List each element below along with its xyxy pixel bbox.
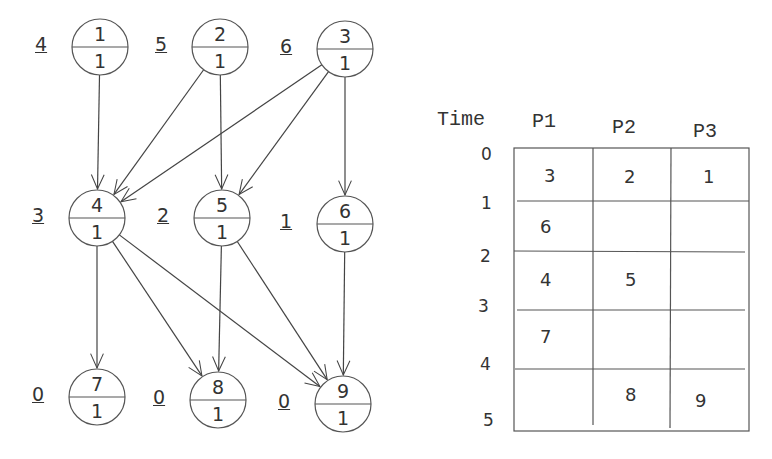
edge-2-5 xyxy=(220,75,221,189)
time-header: Time xyxy=(437,108,485,131)
processor-header-p3: P3 xyxy=(693,120,717,143)
node-id: 9 xyxy=(337,380,349,402)
time-tick-0: 0 xyxy=(481,144,492,164)
node-id: 3 xyxy=(339,25,351,47)
node-level-label-9: 0 xyxy=(278,390,290,412)
node-level-label-1: 4 xyxy=(35,33,47,55)
node-4: 41 xyxy=(69,190,125,246)
node-weight: 1 xyxy=(337,407,349,429)
schedule-cell-t4-p3: 9 xyxy=(695,390,706,411)
time-tick-3: 3 xyxy=(478,296,489,316)
edge-1-4 xyxy=(98,75,100,189)
node-weight: 1 xyxy=(91,400,103,422)
schedule-cell-t3-p1: 7 xyxy=(540,326,551,347)
node-id: 2 xyxy=(214,23,226,45)
node-weight: 1 xyxy=(91,221,103,243)
processor-header-p2: P2 xyxy=(612,116,636,139)
node-level-label-4: 3 xyxy=(32,204,44,226)
schedule-cell-t0-p1: 3 xyxy=(544,165,555,186)
node-weight: 1 xyxy=(339,227,351,249)
node-id: 8 xyxy=(212,376,224,398)
schedule-cell-t1-p1: 6 xyxy=(540,216,551,237)
node-level-label-2: 5 xyxy=(155,33,167,55)
node-1: 11 xyxy=(72,19,128,75)
time-tick-4: 4 xyxy=(480,354,491,374)
task-graph: 112131415161718191 xyxy=(0,0,400,459)
node-7: 71 xyxy=(69,369,125,425)
node-weight: 1 xyxy=(94,50,106,72)
time-tick-2: 2 xyxy=(480,246,491,266)
schedule-cell-t2-p2: 5 xyxy=(625,269,636,290)
node-weight: 1 xyxy=(214,50,226,72)
node-6: 61 xyxy=(317,196,373,252)
node-id: 6 xyxy=(339,200,351,222)
time-tick-1: 1 xyxy=(481,193,492,213)
schedule-cell-t0-p2: 2 xyxy=(624,166,635,187)
node-5: 51 xyxy=(194,190,250,246)
node-id: 5 xyxy=(216,194,228,216)
node-9: 91 xyxy=(315,376,371,432)
node-3: 31 xyxy=(317,21,373,77)
node-2: 21 xyxy=(192,19,248,75)
node-id: 1 xyxy=(94,23,106,45)
edge-5-9 xyxy=(237,241,327,379)
edge-5-8 xyxy=(219,246,222,371)
schedule-cell-t0-p3: 1 xyxy=(703,166,714,187)
schedule-cell-t2-p1: 4 xyxy=(540,269,551,290)
node-level-label-7: 0 xyxy=(32,383,44,405)
nodes: 112131415161718191 xyxy=(69,19,373,432)
node-weight: 1 xyxy=(216,221,228,243)
node-level-label-5: 2 xyxy=(157,204,169,226)
node-weight: 1 xyxy=(339,52,351,74)
schedule-cell-t4-p2: 8 xyxy=(625,384,636,405)
edge-4-8 xyxy=(113,241,202,376)
node-level-label-6: 1 xyxy=(280,210,292,232)
node-id: 7 xyxy=(91,373,103,395)
node-weight: 1 xyxy=(212,403,224,425)
node-level-label-8: 0 xyxy=(153,386,165,408)
node-8: 81 xyxy=(190,372,246,428)
processor-header-p1: P1 xyxy=(532,110,556,133)
time-tick-5: 5 xyxy=(483,410,494,430)
node-id: 4 xyxy=(91,194,103,216)
edge-6-9 xyxy=(343,252,344,375)
node-level-label-3: 6 xyxy=(280,35,292,57)
